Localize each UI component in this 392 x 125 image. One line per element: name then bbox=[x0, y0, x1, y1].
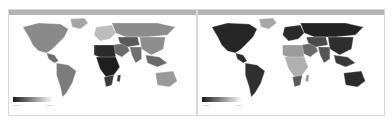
legend-low-label: Higher bbox=[202, 104, 209, 107]
region-central-america bbox=[47, 53, 59, 63]
region-east-asia bbox=[140, 37, 166, 55]
region-europe bbox=[283, 25, 305, 41]
region-africa-south bbox=[292, 75, 302, 87]
legend-high-label: Lower bbox=[235, 104, 242, 107]
map-panel-left: Higher Lower bbox=[8, 9, 197, 116]
region-south-america bbox=[245, 63, 265, 97]
region-madagascar bbox=[305, 75, 309, 82]
region-central-america bbox=[235, 53, 247, 63]
world-choropleth-map bbox=[198, 15, 384, 99]
region-north-america bbox=[212, 23, 257, 53]
region-africa-sub bbox=[96, 57, 120, 77]
region-russia bbox=[112, 23, 175, 37]
region-southeast-asia bbox=[146, 55, 168, 67]
region-greenland bbox=[70, 18, 88, 29]
region-russia bbox=[300, 23, 363, 37]
region-africa-south bbox=[104, 75, 114, 87]
color-legend: Higher Lower bbox=[13, 97, 53, 107]
region-australia bbox=[155, 71, 177, 87]
region-europe bbox=[94, 25, 116, 41]
legend-low-label: Higher bbox=[13, 104, 20, 107]
legend-gradient-bar bbox=[202, 97, 242, 102]
region-southeast-asia bbox=[334, 55, 356, 67]
region-greenland bbox=[259, 18, 277, 29]
region-africa-sub bbox=[285, 57, 309, 77]
region-south-asia bbox=[130, 47, 142, 63]
region-australia bbox=[344, 71, 366, 87]
color-legend: Higher Lower bbox=[202, 97, 242, 107]
world-choropleth-map bbox=[9, 15, 196, 99]
legend-gradient-bar bbox=[13, 97, 53, 102]
region-east-asia bbox=[328, 37, 354, 55]
region-south-asia bbox=[318, 47, 330, 63]
map-panel-right: Higher Lower bbox=[197, 9, 385, 116]
legend-high-label: Lower bbox=[46, 104, 53, 107]
region-south-america bbox=[56, 63, 76, 97]
region-madagascar bbox=[117, 75, 121, 82]
region-north-america bbox=[23, 23, 69, 53]
